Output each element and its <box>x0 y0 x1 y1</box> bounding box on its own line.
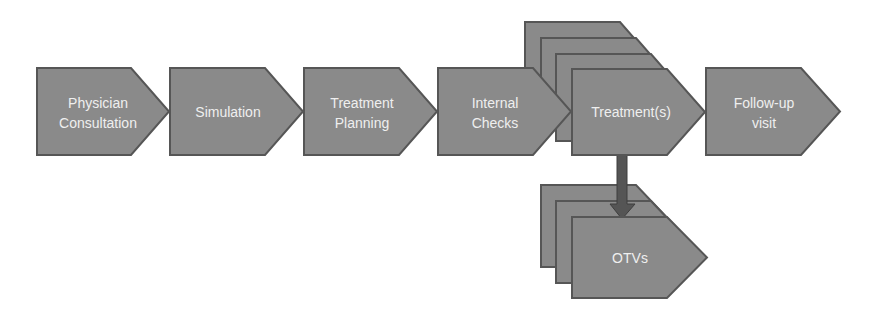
label-line: Checks <box>472 113 519 133</box>
label-line: Physician <box>59 93 137 113</box>
step-follow-up-visit-label: Follow-up visit <box>734 93 795 133</box>
otvs-label: OTVs <box>612 248 648 268</box>
label-line: Internal <box>472 93 519 113</box>
label-line: Follow-up <box>734 93 795 113</box>
step-treatment-planning-label: Treatment Planning <box>330 93 393 133</box>
label-line: OTVs <box>612 248 648 268</box>
step-treatments-label: Treatment(s) <box>591 102 671 122</box>
label-line: Consultation <box>59 113 137 133</box>
label-line: Planning <box>330 113 393 133</box>
step-internal-checks-label: Internal Checks <box>472 93 519 133</box>
label-line: Simulation <box>195 102 260 122</box>
workflow-diagram <box>0 0 879 315</box>
label-line: Treatment(s) <box>591 102 671 122</box>
label-line: Treatment <box>330 93 393 113</box>
step-physician-consultation-label: Physician Consultation <box>59 93 137 133</box>
step-simulation-label: Simulation <box>195 102 260 122</box>
label-line: visit <box>734 113 795 133</box>
